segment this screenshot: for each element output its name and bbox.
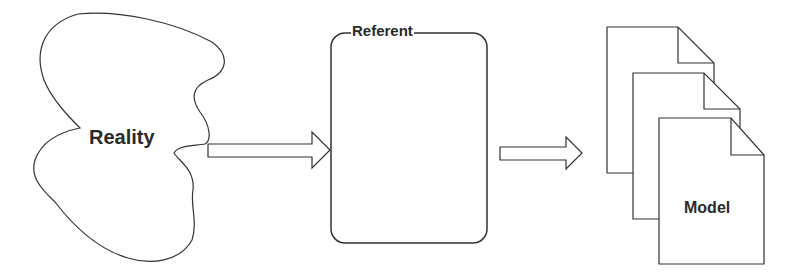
document-front (659, 118, 764, 264)
arrow-reality-to-referent (208, 132, 330, 168)
arrow-referent-to-model (500, 137, 582, 169)
reality-label: Reality (89, 126, 155, 149)
model-label: Model (684, 199, 730, 217)
referent-label: Referent (351, 22, 414, 39)
referent-box (331, 33, 487, 243)
